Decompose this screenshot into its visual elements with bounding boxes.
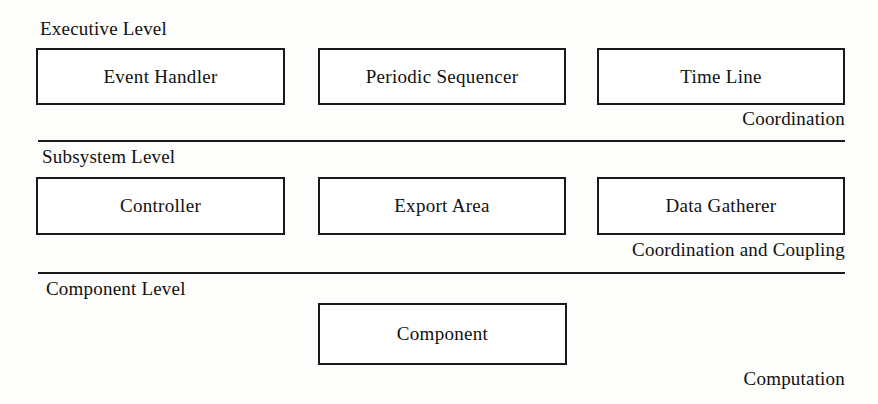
tier-label-subsystem: Subsystem Level [42,146,175,168]
node-event-handler[interactable]: Event Handler [36,48,285,105]
tier-side-label-computation: Computation [575,368,845,390]
node-label: Controller [120,195,201,217]
node-data-gatherer[interactable]: Data Gatherer [597,177,845,235]
node-label: Component [397,323,488,345]
node-label: Event Handler [103,66,217,88]
node-label: Export Area [394,195,490,217]
node-component[interactable]: Component [318,303,567,365]
node-label: Time Line [680,66,762,88]
node-label: Periodic Sequencer [366,66,519,88]
node-time-line[interactable]: Time Line [597,48,845,105]
tier-divider-1 [38,140,845,142]
tier-side-label-coordination: Coordination [545,108,845,130]
tier-label-component: Component Level [46,278,186,300]
tier-label-executive: Executive Level [40,18,167,40]
node-label: Data Gatherer [666,195,777,217]
node-controller[interactable]: Controller [36,177,285,235]
diagram-canvas: Executive Level Event Handler Periodic S… [0,0,878,404]
node-periodic-sequencer[interactable]: Periodic Sequencer [318,48,566,105]
tier-divider-2 [38,272,845,274]
node-export-area[interactable]: Export Area [318,177,566,235]
tier-side-label-coordination-and-coupling: Coordination and Coupling [445,239,845,261]
